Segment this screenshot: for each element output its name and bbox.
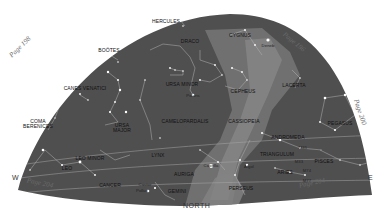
- star-label: Castor: [139, 182, 152, 187]
- constellation-label: PEGASUS: [328, 121, 353, 126]
- constellation-label: HERCULES: [152, 19, 180, 24]
- constellation-label: BOÖTES: [98, 48, 119, 53]
- star-label: Algol: [244, 164, 254, 169]
- constellation-label: CEPHEUS: [231, 89, 256, 94]
- constellation-label: CANES VENATICI: [64, 86, 107, 91]
- constellation-label: LEO MINOR: [76, 156, 105, 161]
- star-label: Polaris: [186, 93, 200, 98]
- constellation-label: CASSIOPEIA: [228, 119, 259, 124]
- constellation-label: CYGNUS: [229, 33, 251, 38]
- constellation-label: DRACO: [181, 39, 200, 44]
- constellation-label: TRIANGULUM: [260, 152, 294, 157]
- star-chart: [0, 0, 385, 213]
- constellation-label: GEMINI: [168, 189, 186, 194]
- star-label: M31: [299, 145, 307, 150]
- constellation-label: ARIES: [277, 170, 293, 175]
- star-label: Pollux: [136, 188, 148, 193]
- constellation-label: PERSEUS: [229, 186, 254, 191]
- constellation-label: ANDROMEDA: [271, 135, 304, 140]
- constellation-label: COMABERENICES: [23, 119, 53, 129]
- star-label: M33: [295, 159, 303, 164]
- star-label: Capella: [204, 163, 219, 168]
- star-label: M74: [303, 168, 311, 173]
- constellation-label: LYNX: [151, 153, 164, 158]
- constellation-label: LEO: [62, 166, 72, 171]
- direction-north: NORTH: [183, 202, 210, 209]
- star-label: Deneb: [262, 43, 275, 48]
- constellation-label: PISCES: [315, 159, 334, 164]
- constellation-label: AURIGA: [174, 172, 194, 177]
- direction-east: E: [368, 174, 373, 181]
- constellation-label: CAMELOPARDALIS: [162, 119, 209, 124]
- constellation-label: URSAMAJOR: [113, 123, 131, 133]
- constellation-label: URSA MINOR: [166, 82, 199, 87]
- constellation-label: CANCER: [99, 183, 121, 188]
- direction-west: W: [12, 174, 19, 181]
- constellation-label: LACERTA: [282, 83, 305, 88]
